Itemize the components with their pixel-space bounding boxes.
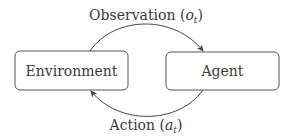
- action-arrow: [91, 90, 203, 116]
- agent-environment-diagram: Environment Agent Observation (ot) Actio…: [0, 0, 293, 137]
- action-label: Action (at): [109, 117, 183, 135]
- observation-arrow: [90, 24, 203, 51]
- observation-label: Observation (ot): [89, 7, 203, 25]
- agent-node: Agent: [166, 52, 279, 90]
- environment-label: Environment: [26, 63, 118, 79]
- agent-label: Agent: [201, 63, 244, 79]
- environment-node: Environment: [15, 51, 128, 90]
